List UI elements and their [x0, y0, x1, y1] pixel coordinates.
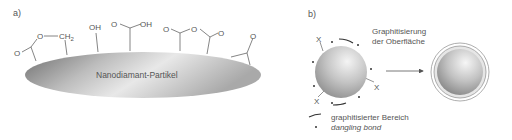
particle-label: Nanodiamant-Partikel: [96, 70, 178, 80]
panel-b-label: b): [308, 9, 316, 19]
lactone-carbonyl-o: O: [14, 49, 20, 58]
legend-arc-label: graphitisierter Bereich: [331, 113, 409, 122]
panel-a: a) Nanodiama: [13, 8, 261, 98]
anhydride-bond-surface-2: [207, 37, 210, 54]
process-label-line2: der Oberfläche: [372, 37, 425, 46]
lactone-bond-surface-left: [31, 47, 36, 61]
anhydride-o-2: O: [218, 29, 224, 38]
dangling-bond-dot: [313, 85, 315, 87]
dangling-bond-dot: [357, 44, 359, 46]
lactone-bond-ch2-surface: [65, 40, 67, 55]
panel-a-label: a): [13, 8, 21, 18]
x-bond-right: [365, 78, 374, 82]
dangling-bond-dot: [331, 102, 333, 104]
hydroxyl-bond: [96, 33, 98, 52]
panel-b: b) X X X Graphitisierung der O: [308, 9, 489, 132]
lactone-ring-o: O: [37, 32, 43, 41]
legend: graphitisierter Bereich dangling bond: [309, 113, 409, 132]
diamond-sphere: [315, 46, 367, 98]
anhydride-bond-ring-1: [180, 29, 190, 33]
anhydride-o-1: O: [163, 25, 169, 34]
anhydride-double-bond-1: [171, 29, 180, 33]
diamond-core: [437, 49, 483, 95]
graphitized-arc-top: [339, 39, 353, 43]
x-mark-bottom: X: [314, 97, 320, 106]
carboxyl-double-bond: [120, 24, 130, 28]
graphitized-arc-bottom: [333, 103, 346, 105]
ketone-bond-surface-1: [231, 53, 247, 57]
legend-arc-icon: [309, 114, 321, 117]
legend-dot-icon: [315, 126, 317, 128]
ketone-o: O: [250, 32, 256, 41]
process-label-line1: Graphitisierung: [372, 27, 426, 36]
dangling-bond-dot: [331, 41, 333, 43]
legend-dot-label: dangling bond: [331, 123, 382, 132]
lactone-ch2: CH2: [59, 32, 75, 42]
ketone-bond-surface-2: [247, 53, 250, 65]
anhydride-double-bond-2: [210, 33, 218, 37]
lactone-carbonyl-bond: [22, 47, 31, 52]
anhydride-ring-o: O: [191, 25, 197, 34]
carboxyl-oh: OH: [140, 20, 152, 29]
dangling-bond-dot: [370, 68, 372, 70]
diagram-canvas: a) Nanodiama: [0, 0, 512, 140]
anhydride-bond-ring-2: [200, 29, 210, 37]
hydroxyl-group: OH: [89, 23, 101, 32]
x-mark-top: X: [316, 35, 322, 44]
carboxyl-o: O: [111, 20, 117, 29]
dangling-bond-dot: [358, 96, 360, 98]
graphitized-nanodiamond: [431, 43, 489, 101]
untreated-nanodiamond: X X X: [312, 35, 380, 106]
x-mark-right: X: [374, 83, 380, 92]
dangling-bond-dot: [312, 61, 314, 63]
